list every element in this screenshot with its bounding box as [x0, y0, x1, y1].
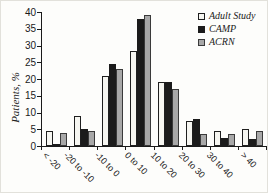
legend: Adult StudyCAMPACRN	[198, 11, 255, 50]
x-category-label: -10 to 0	[93, 150, 122, 179]
y-tick-label: 30	[12, 40, 36, 51]
x-tick-mark	[154, 147, 155, 150]
bar-camp	[81, 129, 88, 146]
bar-camp	[137, 19, 144, 146]
x-tick-mark	[125, 147, 126, 150]
bar-adult-study	[102, 76, 109, 146]
bar-acrn	[172, 89, 179, 146]
x-tick-mark	[266, 147, 267, 150]
y-tick-label: 40	[12, 7, 36, 18]
bar-adult-study	[158, 82, 165, 146]
bar-adult-study	[242, 129, 249, 146]
x-category-label: < -20	[41, 150, 63, 172]
y-tick-label: 10	[12, 107, 36, 118]
legend-label: Adult Study	[209, 11, 255, 21]
legend-item: ACRN	[198, 37, 255, 47]
y-tick-mark	[37, 96, 41, 97]
bar-acrn	[116, 69, 123, 146]
y-tick-label: 15	[12, 90, 36, 101]
legend-item: CAMP	[198, 24, 255, 34]
x-tick-mark	[97, 147, 98, 150]
x-category-label: 10 to 20	[149, 150, 179, 180]
y-tick-mark	[37, 46, 41, 47]
x-category-label: 20 to 30	[177, 150, 207, 180]
bar-acrn	[60, 133, 67, 146]
y-tick-mark	[37, 113, 41, 114]
bar-acrn	[256, 131, 263, 146]
x-category-label: 30 to 40	[205, 150, 235, 180]
bar-acrn	[228, 134, 235, 146]
legend-label: ACRN	[209, 37, 235, 47]
bar-camp	[109, 64, 116, 146]
bar-acrn	[88, 131, 95, 146]
y-tick-mark	[37, 29, 41, 30]
bar-adult-study	[46, 131, 53, 146]
bar-adult-study	[74, 116, 81, 146]
y-tick-mark	[37, 62, 41, 63]
y-tick-mark	[37, 129, 41, 130]
legend-marker-adult-study	[198, 13, 205, 20]
x-tick-mark	[41, 147, 42, 150]
x-category-label: 0 to 10	[122, 150, 149, 177]
legend-marker-acrn	[198, 39, 205, 46]
y-tick-label: 35	[12, 23, 36, 34]
bar-adult-study	[214, 131, 221, 146]
y-tick-mark	[37, 79, 41, 80]
y-tick-label: 25	[12, 57, 36, 68]
y-tick-mark	[37, 12, 41, 13]
bar-camp	[193, 119, 200, 146]
x-tick-mark	[238, 147, 239, 150]
bar-acrn	[200, 134, 207, 146]
bar-adult-study	[186, 121, 193, 146]
bar-camp	[165, 82, 172, 146]
legend-label: CAMP	[209, 24, 236, 34]
bar-camp	[221, 138, 228, 146]
x-category-label: > 40	[238, 150, 258, 170]
bar-acrn	[144, 15, 151, 146]
y-tick-label: 5	[12, 124, 36, 135]
legend-item: Adult Study	[198, 11, 255, 21]
y-tick-label: 0	[12, 141, 36, 152]
x-category-label: -20 to -10	[62, 150, 96, 184]
bar-camp	[249, 139, 256, 146]
y-tick-label: 20	[12, 74, 36, 85]
bar-adult-study	[130, 51, 137, 146]
bar-camp	[53, 144, 60, 146]
bar-chart-figure: Patients, % 0510152025303540 Adult Study…	[0, 0, 268, 193]
legend-marker-camp	[198, 26, 205, 33]
